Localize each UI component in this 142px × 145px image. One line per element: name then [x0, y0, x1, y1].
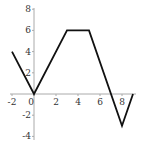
x-tick-labels: -202468: [8, 94, 126, 107]
y-tick-label: -4: [22, 131, 31, 141]
x-tick-label: 6: [97, 97, 103, 107]
y-tick-label: -2: [22, 110, 31, 120]
y-tick-label: 8: [25, 4, 31, 14]
y-tick-label: 4: [25, 47, 31, 57]
y-tick-label: 6: [25, 25, 31, 35]
piecewise-line-chart: -202468 8642-2-4: [0, 0, 142, 145]
y-tick-label: 2: [25, 68, 31, 78]
x-tick-label: 0: [28, 97, 34, 107]
x-tick-label: 2: [53, 97, 59, 107]
x-tick-label: -2: [8, 97, 17, 107]
x-tick-label: 8: [119, 97, 125, 107]
x-tick-label: 4: [75, 97, 81, 107]
